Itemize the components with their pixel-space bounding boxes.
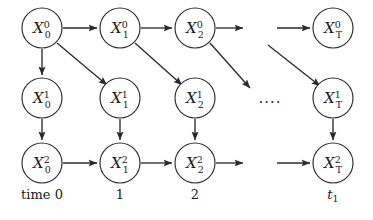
node-x00[interactable]: X00 bbox=[22, 8, 62, 48]
node-label-xT1: X1T bbox=[323, 89, 343, 110]
dbn-figure: X00 X01 X02 X0T bbox=[0, 0, 373, 220]
node-xT0[interactable]: X0T bbox=[313, 8, 353, 48]
time-label-1: 1 bbox=[116, 187, 124, 202]
node-label-x00: X00 bbox=[32, 19, 51, 40]
time-axis-labels: time 0 1 2 t1 bbox=[21, 187, 339, 204]
node-label-x12: X21 bbox=[110, 154, 129, 175]
node-x20[interactable]: X02 bbox=[175, 8, 215, 48]
node-x02[interactable]: X20 bbox=[22, 143, 62, 183]
node-label-xT0: X0T bbox=[323, 19, 343, 40]
node-label-x11: X11 bbox=[110, 89, 129, 110]
node-label-xT2: X2T bbox=[323, 154, 343, 175]
graph-canvas: X00 X01 X02 X0T bbox=[0, 0, 373, 220]
node-xT2[interactable]: X2T bbox=[313, 143, 353, 183]
node-label-x02: X20 bbox=[32, 154, 51, 175]
node-xT1[interactable]: X1T bbox=[313, 78, 353, 118]
node-x01[interactable]: X10 bbox=[22, 78, 62, 118]
node-x10[interactable]: X01 bbox=[100, 8, 140, 48]
time-label-0: time 0 bbox=[21, 187, 63, 202]
node-x22[interactable]: X22 bbox=[175, 143, 215, 183]
node-layer: X00 X01 X02 X0T bbox=[22, 8, 353, 183]
edge-gap-xT1-diagonal bbox=[268, 45, 320, 86]
edge-x00-x11 bbox=[57, 43, 107, 85]
node-x12[interactable]: X21 bbox=[100, 143, 140, 183]
node-label-x21: X12 bbox=[185, 89, 204, 110]
time-label-2: 2 bbox=[191, 187, 199, 202]
node-label-x20: X02 bbox=[185, 19, 204, 40]
node-label-x01: X10 bbox=[32, 89, 51, 110]
time-label-t1: t1 bbox=[327, 187, 338, 204]
node-x21[interactable]: X12 bbox=[175, 78, 215, 118]
node-x11[interactable]: X11 bbox=[100, 78, 140, 118]
ellipsis-dots: .... bbox=[258, 89, 281, 107]
edge-x20-gap-diagonal bbox=[210, 43, 250, 88]
edge-x10-x21 bbox=[135, 43, 182, 85]
node-label-x22: X22 bbox=[185, 154, 204, 175]
node-label-x10: X01 bbox=[110, 19, 129, 40]
